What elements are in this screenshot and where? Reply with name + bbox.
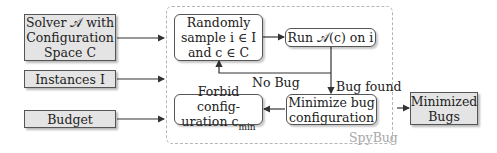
forbid-line2-text: uration c	[181, 114, 238, 129]
run-solver-box: Run 𝒜(c) on i	[285, 28, 376, 47]
forbid-line1: Forbid config-	[175, 84, 262, 114]
forbid-subscript: min	[238, 122, 255, 132]
minimize-line1: Minimize bug	[288, 95, 375, 110]
solver-input-box: Solver 𝒜 with Configuration Space C	[24, 14, 116, 61]
bug-found-label: Bug found	[336, 80, 401, 94]
budget-input-box: Budget	[24, 110, 116, 128]
solver-line1: Solver 𝒜 with	[26, 15, 114, 30]
budget-label: Budget	[47, 112, 93, 127]
solver-line2: Configuration	[26, 30, 114, 45]
run-label: Run 𝒜(c) on i	[288, 30, 374, 45]
output-line1: Minimized	[411, 94, 478, 109]
forbid-box: Forbid config- uration cmin	[174, 94, 263, 125]
minimize-line2: configuration	[289, 110, 374, 125]
solver-line3: Space C	[44, 45, 96, 60]
minimized-bugs-box: Minimized Bugs	[410, 92, 478, 125]
minimize-box: Minimize bug configuration	[286, 94, 377, 125]
spybug-label: SpyBug	[349, 130, 398, 145]
no-bug-label: No Bug	[252, 76, 300, 90]
forbid-line2: uration cmin	[181, 114, 255, 135]
sample-line2: sample i ∈ I	[181, 30, 256, 45]
sample-line3: and c ∈ C	[188, 45, 249, 60]
sample-box: Randomly sample i ∈ I and c ∈ C	[174, 14, 263, 61]
sample-line1: Randomly	[187, 15, 251, 30]
instances-input-box: Instances I	[24, 70, 116, 88]
instances-label: Instances I	[35, 72, 105, 87]
output-line2: Bugs	[428, 109, 460, 124]
